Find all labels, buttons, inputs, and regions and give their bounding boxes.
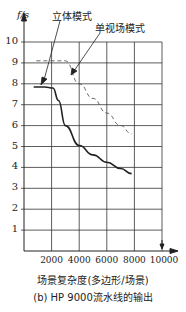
x-tick-label: 6000 <box>95 255 118 265</box>
annotation-stereo-mode: 立体模式 <box>52 8 92 23</box>
x-axis-arrow-icon <box>170 249 178 254</box>
y-tick-label: 4 <box>4 160 18 171</box>
y-tick-label: 8 <box>4 77 18 88</box>
annotation-arrows <box>41 21 100 85</box>
arrow-mono-head-icon <box>71 68 77 75</box>
chart-canvas <box>0 0 186 312</box>
arrow-stereo-line <box>44 21 60 80</box>
y-tick-label: 6 <box>4 119 18 130</box>
series-stereo-mode <box>34 87 132 174</box>
axes <box>22 13 179 254</box>
y-tick-label: 3 <box>4 181 18 192</box>
y-tick-label: 7 <box>4 98 18 109</box>
x-tick-label: 8000 <box>123 255 146 265</box>
x-end-arrow-icon <box>160 244 164 249</box>
y-axis-label: f/s <box>17 9 29 20</box>
x-tick-label: 2000 <box>40 255 63 265</box>
y-tick-label: 1 <box>4 223 18 234</box>
y-tick-label: 10 <box>4 35 18 46</box>
x-tick-label: 10000 <box>150 255 179 265</box>
y-tick-label: 2 <box>4 202 18 213</box>
grid-lines <box>21 42 162 251</box>
series-mono-mode <box>36 61 131 134</box>
y-tick-label: 9 <box>4 56 18 67</box>
x-tick-label: 4000 <box>68 255 91 265</box>
data-series <box>34 61 132 174</box>
x-axis-label: 场景复杂度(多边形/场景) <box>0 272 186 287</box>
arrow-mono-line <box>74 33 100 71</box>
figure-caption: (b) HP 9000流水线的输出 <box>0 289 186 304</box>
y-tick-label: 5 <box>4 140 18 151</box>
annotation-mono-mode: 单视场模式 <box>95 20 145 35</box>
